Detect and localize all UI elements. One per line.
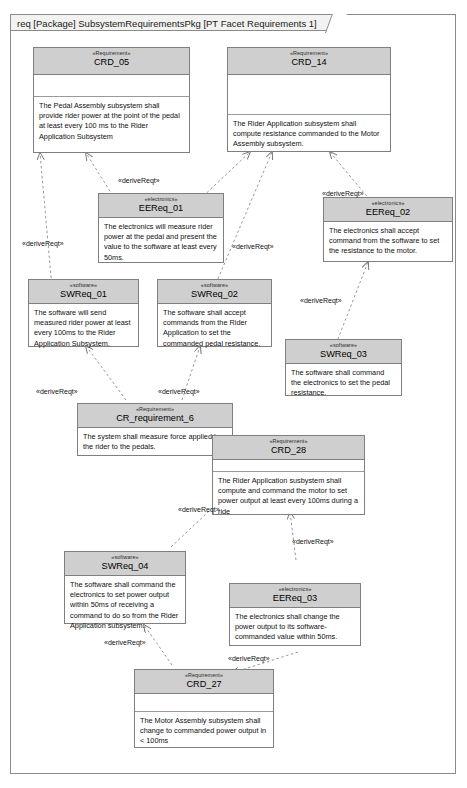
block-compartment-empty [34, 75, 189, 97]
requirement-block-swreq-04[interactable]: «software» SWReq_04 The software shall c… [64, 551, 186, 624]
block-text: The software shall accept commands from … [158, 304, 271, 353]
edge-label-deriveReqt-11: «deriveReqt» [228, 655, 270, 662]
block-header: «software» SWReq_02 [158, 280, 271, 304]
stereotype-label: «software» [31, 282, 136, 289]
stereotype-label: «electronics» [101, 196, 221, 203]
block-text: The software will send measured rider po… [29, 304, 138, 353]
requirement-block-swreq-02[interactable]: «software» SWReq_02 The software shall a… [157, 279, 272, 347]
stereotype-label: «Requirement» [137, 672, 271, 679]
diagram-frame-label: req [Package] SubsystemRequirementsPkg [… [10, 14, 340, 31]
block-header: «software» SWReq_04 [65, 552, 185, 576]
block-name: EEReq_01 [101, 203, 221, 214]
block-text: The Pedal Assembly subsystem shall provi… [34, 97, 189, 146]
block-header: «electronics» EEReq_02 [324, 198, 452, 222]
block-text: The electronics shall change the power o… [230, 608, 360, 647]
block-name: CRD_05 [36, 57, 187, 68]
requirement-block-crd-05[interactable]: «Requirement» CRD_05 The Pedal Assembly … [33, 47, 190, 153]
edge-label-deriveReqt-4: «deriveReqt» [322, 190, 364, 197]
stereotype-label: «software» [67, 554, 183, 561]
edge-label-deriveReqt-6: «deriveReqt» [36, 388, 78, 395]
block-header: «electronics» EEReq_03 [230, 584, 360, 608]
edge-label-deriveReqt-2: «deriveReqt» [22, 240, 64, 247]
requirement-block-cr-requirement-6[interactable]: «Requirement» CR_requirement_6 The syste… [77, 403, 233, 456]
block-name: SWReq_01 [31, 289, 136, 300]
block-name: CRD_14 [230, 57, 388, 68]
block-compartment-empty [213, 460, 364, 472]
stereotype-label: «electronics» [326, 200, 450, 207]
block-name: SWReq_03 [288, 349, 399, 360]
block-text: The electronics shall accept command fro… [324, 222, 452, 261]
edge-label-deriveReqt-10: «deriveReqt» [104, 639, 146, 646]
edge-label-deriveReqt-7: «deriveReqt» [158, 388, 200, 395]
block-name: CRD_27 [137, 679, 271, 690]
block-text: The system shall measure force applied b… [78, 428, 232, 456]
stereotype-label: «electronics» [232, 586, 358, 593]
edge-label-deriveReqt-1: «deriveReqt» [118, 177, 160, 184]
stereotype-label: «software» [288, 342, 399, 349]
block-compartment-empty [228, 75, 390, 115]
block-header: «software» SWReq_03 [286, 340, 401, 364]
edge-label-deriveReqt-5: «deriveReqt» [300, 297, 342, 304]
requirement-block-crd-28[interactable]: «Requirement» CRD_28 The Rider Applicati… [212, 435, 365, 515]
block-header: «electronics» EEReq_01 [99, 194, 223, 218]
block-header: «Requirement» CRD_28 [213, 436, 364, 460]
edge-label-deriveReqt-3: «deriveReqt» [232, 243, 274, 250]
block-name: SWReq_02 [160, 289, 269, 300]
block-text: The software shall command the electroni… [286, 364, 401, 403]
block-name: EEReq_02 [326, 207, 450, 218]
stereotype-label: «Requirement» [36, 50, 187, 57]
requirement-block-eereq-03[interactable]: «electronics» EEReq_03 The electronics s… [229, 583, 361, 646]
requirement-block-swreq-03[interactable]: «software» SWReq_03 The software shall c… [285, 339, 402, 396]
stereotype-label: «Requirement» [80, 406, 230, 413]
block-name: EEReq_03 [232, 593, 358, 604]
block-text: The Rider Application susbystem shall co… [213, 472, 364, 521]
block-text: The electronics will measure rider power… [99, 218, 223, 267]
block-header: «Requirement» CRD_14 [228, 48, 390, 75]
block-name: CR_requirement_6 [80, 413, 230, 424]
requirement-block-crd-27[interactable]: «Requirement» CRD_27 The Motor Assembly … [134, 669, 274, 748]
edge-label-deriveReqt-9: «deriveReqt» [292, 538, 334, 545]
requirement-block-swreq-01[interactable]: «software» SWReq_01 The software will se… [28, 279, 139, 347]
block-compartment-empty [135, 694, 273, 712]
block-header: «Requirement» CR_requirement_6 [78, 404, 232, 428]
block-text: The software shall command the electroni… [65, 576, 185, 635]
block-name: SWReq_04 [67, 561, 183, 572]
stereotype-label: «Requirement» [215, 438, 362, 445]
block-header: «Requirement» CRD_27 [135, 670, 273, 694]
edge-label-deriveReqt-8: «deriveReqt» [178, 506, 220, 513]
block-text: The Motor Assembly subsystem shall chang… [135, 712, 273, 751]
requirement-block-crd-14[interactable]: «Requirement» CRD_14 The Rider Applicati… [227, 47, 391, 152]
stereotype-label: «software» [160, 282, 269, 289]
block-header: «Requirement» CRD_05 [34, 48, 189, 75]
requirement-block-eereq-01[interactable]: «electronics» EEReq_01 The electronics w… [98, 193, 224, 263]
requirement-block-eereq-02[interactable]: «electronics» EEReq_02 The electronics s… [323, 197, 453, 262]
block-text: The Rider Application subsystem shall co… [228, 115, 390, 154]
block-header: «software» SWReq_01 [29, 280, 138, 304]
block-name: CRD_28 [215, 445, 362, 456]
stereotype-label: «Requirement» [230, 50, 388, 57]
